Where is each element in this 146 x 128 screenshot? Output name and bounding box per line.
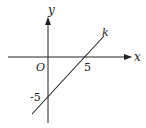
y-axis-label: y (47, 3, 55, 17)
y-intercept-label: -5 (30, 91, 41, 104)
x-axis-label: x (134, 50, 141, 64)
x-intercept-label: 5 (84, 61, 91, 74)
line-k (32, 36, 104, 114)
origin-label: O (36, 61, 45, 74)
coordinate-diagram: x y O k 5 -5 (0, 0, 146, 128)
line-k-label: k (102, 26, 109, 39)
